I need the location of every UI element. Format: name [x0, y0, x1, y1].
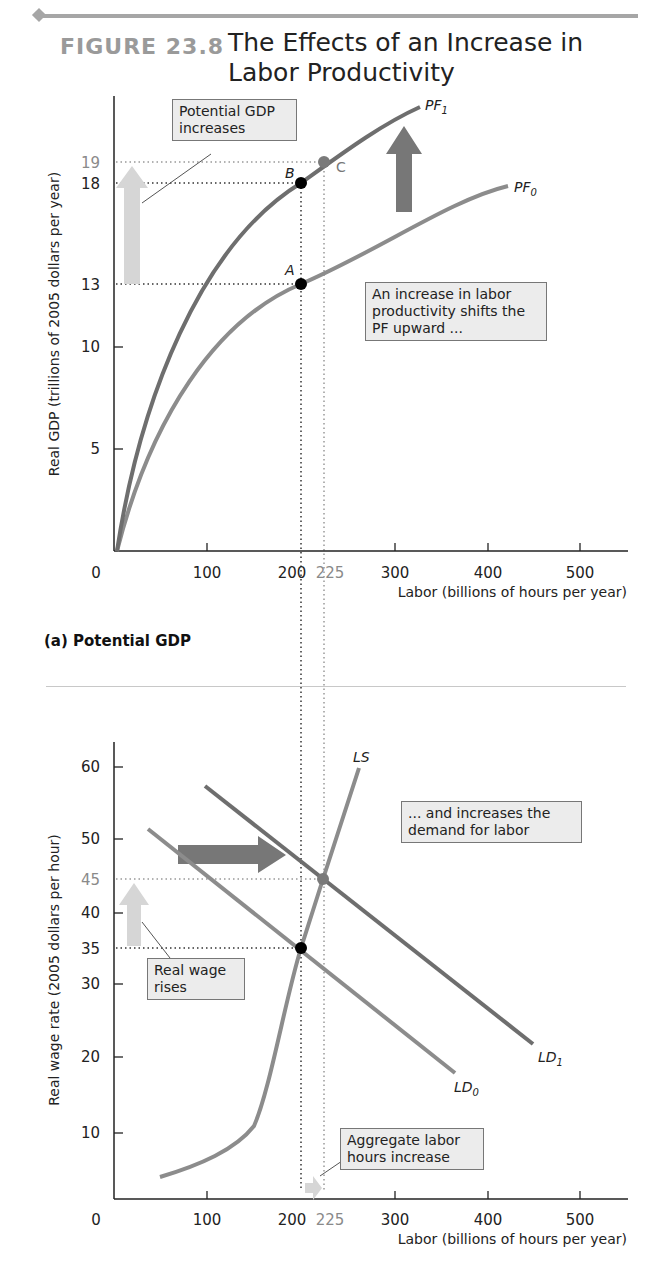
b-xtick-500: 500 [566, 1211, 595, 1229]
b-ytick-35: 35 [81, 940, 100, 958]
a-xtick-225: 225 [316, 564, 345, 582]
potential-gdp-arrow-icon [116, 166, 148, 284]
label-ld0: LD0 [454, 1079, 479, 1098]
panel-divider [46, 686, 626, 687]
point-equilibrium-1 [317, 873, 329, 885]
a-xtick-100: 100 [193, 564, 222, 582]
label-a: A [284, 262, 295, 278]
b-ytick-10: 10 [81, 1124, 100, 1142]
b-ytick-60: 60 [81, 758, 100, 776]
a-ytick-19: 19 [81, 154, 100, 172]
a-ytick-10: 10 [81, 338, 100, 356]
label-c: C [336, 159, 346, 175]
label-pf1: PF1 [425, 97, 448, 116]
a-xtick-500: 500 [566, 564, 595, 582]
point-c [318, 156, 330, 168]
pf0-curve [117, 186, 508, 551]
a-xtick-300: 300 [381, 564, 410, 582]
a-y-axis-title: Real GDP (trillions of 2005 dollars per … [46, 172, 62, 476]
callout-labor-hours: Aggregate labor hours increase [340, 1128, 484, 1170]
real-wage-leader [142, 922, 170, 958]
label-b: B [285, 165, 295, 181]
a-xtick-0: 0 [91, 564, 101, 582]
b-xtick-0: 0 [91, 1211, 101, 1229]
callout-demand: ... and increases the demand for labor [401, 801, 582, 843]
label-ls: LS [353, 749, 370, 765]
a-xtick-200: 200 [278, 564, 307, 582]
a-ytick-13: 13 [81, 276, 100, 294]
b-ytick-30: 30 [81, 975, 100, 993]
a-x-axis-title: Labor (billions of hours per year) [398, 584, 627, 600]
callout-potential-gdp: Potential GDP increases [172, 99, 297, 141]
labor-hours-leader [320, 1161, 342, 1176]
point-b [295, 177, 307, 189]
callout-real-wage: Real wage rises [147, 958, 245, 1000]
ticks-a [114, 347, 580, 551]
b-y-axis-title: Real wage rate (2005 dollars per hour) [46, 834, 62, 1106]
label-pf0: PF0 [514, 179, 537, 198]
labor-hours-arrow-icon [305, 1176, 322, 1200]
b-ytick-40: 40 [81, 904, 100, 922]
panel-a-label: (a) Potential GDP [44, 632, 191, 650]
b-xtick-300: 300 [381, 1211, 410, 1229]
b-ytick-20: 20 [81, 1048, 100, 1066]
b-xtick-200: 200 [278, 1211, 307, 1229]
point-equilibrium-0 [295, 942, 307, 954]
b-xtick-225: 225 [316, 1211, 345, 1229]
b-ytick-45: 45 [81, 871, 100, 889]
point-a [295, 278, 307, 290]
label-ld1: LD1 [538, 1049, 563, 1068]
a-xtick-400: 400 [474, 564, 503, 582]
b-xtick-100: 100 [193, 1211, 222, 1229]
b-x-axis-title: Labor (billions of hours per year) [398, 1231, 627, 1247]
b-xtick-400: 400 [474, 1211, 503, 1229]
callout-pf-shift: An increase in labor productivity shifts… [365, 282, 547, 341]
pf-shift-arrow-icon [386, 126, 422, 212]
real-wage-arrow-icon [119, 883, 149, 946]
a-ytick-5: 5 [90, 440, 100, 458]
b-ytick-50: 50 [81, 830, 100, 848]
a-ytick-18: 18 [81, 175, 100, 193]
